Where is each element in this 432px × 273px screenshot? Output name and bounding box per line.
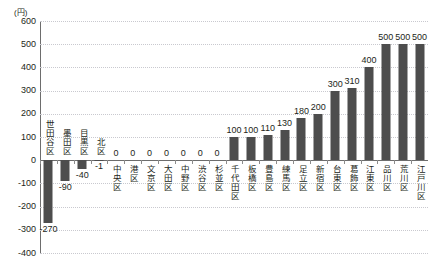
axis-tick-mark	[57, 160, 58, 164]
x-axis-category-label: 杉並区	[213, 165, 222, 192]
bar-group[interactable]: 130練馬区	[276, 21, 293, 253]
bar-group[interactable]: 0渋谷区	[192, 21, 209, 253]
bar-value-label: 400	[361, 56, 376, 65]
bar[interactable]	[297, 118, 306, 160]
y-axis-tick-label: 300	[2, 86, 36, 95]
x-axis-category-label: 足立区	[297, 165, 306, 192]
bar-group[interactable]: 500品川区	[377, 21, 394, 253]
x-axis-category-label: 北区	[95, 138, 104, 156]
bar-value-label: 500	[378, 33, 393, 42]
bar[interactable]	[331, 91, 340, 161]
bar-value-label: 310	[345, 77, 360, 86]
axis-tick-mark	[209, 160, 210, 164]
axis-tick-mark	[158, 160, 159, 164]
x-axis-category-label: 墨田区	[61, 129, 70, 156]
bar-group[interactable]: 0文京区	[141, 21, 158, 253]
bar-value-label: -90	[59, 183, 72, 192]
axis-tick-mark	[226, 160, 227, 164]
bar[interactable]	[398, 44, 407, 160]
bar-value-label: 0	[113, 149, 118, 158]
bar-group[interactable]: -1北区	[91, 21, 108, 253]
bar-group[interactable]: -270世田谷区	[40, 21, 57, 253]
axis-tick-mark	[293, 160, 294, 164]
x-axis-category-label: 豊島区	[263, 165, 272, 192]
axis-tick-mark	[141, 160, 142, 164]
x-axis-category-label: 目黒区	[78, 129, 87, 156]
bar-group[interactable]: 0港区	[124, 21, 141, 253]
bar-group[interactable]: 100板橋区	[242, 21, 259, 253]
bar-group[interactable]: -40目黒区	[74, 21, 91, 253]
axis-tick-mark	[107, 160, 108, 164]
bar-value-label: 100	[243, 126, 258, 135]
x-axis-category-label: 台東区	[331, 165, 340, 192]
y-axis-tick-label: 0	[2, 156, 36, 165]
axis-tick-mark	[192, 160, 193, 164]
x-axis-category-label: 品川区	[381, 165, 390, 192]
y-axis-tick-label: -100	[2, 179, 36, 188]
axis-tick-mark	[361, 160, 362, 164]
y-axis-tick-labels: 6005004003002001000-100-200-300-400	[0, 0, 36, 273]
bar-group[interactable]: 300台東区	[327, 21, 344, 253]
bar[interactable]	[78, 160, 87, 169]
x-axis-category-label: 江東区	[364, 165, 373, 192]
y-axis-tick-label: 500	[2, 40, 36, 49]
y-axis-tick-label: -400	[2, 249, 36, 258]
bar-chart: (円) 6005004003002001000-100-200-300-400 …	[0, 0, 432, 273]
axis-tick-mark	[40, 160, 41, 164]
axis-tick-mark	[74, 160, 75, 164]
bar-group[interactable]: 180足立区	[293, 21, 310, 253]
y-axis-tick-label: 400	[2, 63, 36, 72]
bar-value-label: 0	[215, 149, 220, 158]
axis-tick-mark	[310, 160, 311, 164]
bar-value-label: 0	[198, 149, 203, 158]
bar-group[interactable]: 0中野区	[175, 21, 192, 253]
bar[interactable]	[364, 67, 373, 160]
bar-group[interactable]: 400江東区	[361, 21, 378, 253]
bar-group[interactable]: 0杉並区	[209, 21, 226, 253]
bar-group[interactable]: 310葛飾区	[344, 21, 361, 253]
x-axis-category-label: 渋谷区	[196, 165, 205, 192]
bar-group[interactable]: 100千代田区	[226, 21, 243, 253]
x-axis-category-label: 中野区	[179, 165, 188, 192]
bar-value-label: 0	[181, 149, 186, 158]
bar-value-label: -270	[39, 225, 57, 234]
bar[interactable]	[280, 130, 289, 160]
x-axis-category-label: 荒川区	[398, 165, 407, 192]
bar[interactable]	[381, 44, 390, 160]
bar[interactable]	[314, 114, 323, 160]
bar-value-label: 110	[261, 124, 275, 133]
y-axis-tick-label: 600	[2, 17, 36, 26]
axis-tick-mark	[91, 160, 92, 164]
y-axis-tick-label: 100	[2, 133, 36, 142]
bar-group[interactable]: 0中央区	[107, 21, 124, 253]
bar[interactable]	[246, 137, 255, 160]
bar-group[interactable]: 200新宿区	[310, 21, 327, 253]
y-axis-tick-label: -300	[2, 225, 36, 234]
bar-value-label: 0	[164, 149, 169, 158]
axis-tick-mark	[242, 160, 243, 164]
axis-tick-mark	[124, 160, 125, 164]
gridline	[40, 253, 428, 254]
bar[interactable]	[61, 160, 70, 181]
bar[interactable]	[229, 137, 238, 160]
bar-value-label: 100	[226, 126, 241, 135]
bar-group[interactable]: 110豊島区	[259, 21, 276, 253]
axis-tick-mark	[377, 160, 378, 164]
bar[interactable]	[348, 88, 357, 160]
bar-value-label: -1	[95, 162, 103, 171]
axis-tick-mark	[411, 160, 412, 164]
axis-tick-mark	[394, 160, 395, 164]
bar[interactable]	[44, 160, 53, 223]
axis-tick-mark	[276, 160, 277, 164]
y-axis-tick-label: -200	[2, 202, 36, 211]
bar[interactable]	[263, 135, 272, 161]
bar-group[interactable]: 0大田区	[158, 21, 175, 253]
bar-group[interactable]: 500荒川区	[394, 21, 411, 253]
x-axis-category-label: 練馬区	[280, 165, 289, 192]
bar-group[interactable]: -90墨田区	[57, 21, 74, 253]
x-axis-category-label: 大田区	[162, 165, 171, 192]
bar-value-label: 0	[147, 149, 152, 158]
axis-tick-mark	[259, 160, 260, 164]
bar-group[interactable]: 500江戸川区	[411, 21, 428, 253]
bar[interactable]	[415, 44, 424, 160]
